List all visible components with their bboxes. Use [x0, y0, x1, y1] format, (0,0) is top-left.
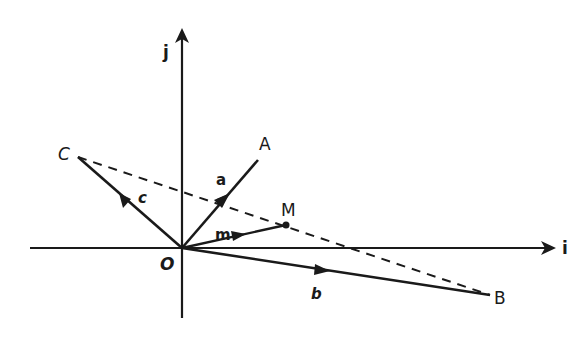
point-a-label: A	[259, 134, 271, 154]
vector-m	[182, 222, 290, 249]
i-axis-label: i	[562, 238, 568, 258]
vector-c-label: c	[138, 189, 147, 207]
vector-b	[182, 248, 490, 295]
vector-m-label: m	[215, 226, 231, 244]
point-c-label: C	[58, 144, 70, 164]
vector-m-arrowhead-icon	[231, 231, 246, 241]
i-axis	[30, 241, 556, 255]
point-m-dot	[283, 222, 290, 229]
origin-label: O	[160, 254, 174, 274]
j-axis-label: j	[162, 42, 169, 62]
vector-c-arrowhead-icon	[119, 193, 131, 208]
vector-a-label: a	[216, 171, 226, 189]
vector-b-label: b	[311, 285, 322, 303]
point-b-label: B	[494, 288, 506, 308]
vector-c	[78, 157, 182, 248]
vector-diagram: j i O A C B M a c m b	[0, 0, 587, 338]
j-axis	[175, 28, 189, 318]
point-m-label: M	[281, 200, 296, 220]
